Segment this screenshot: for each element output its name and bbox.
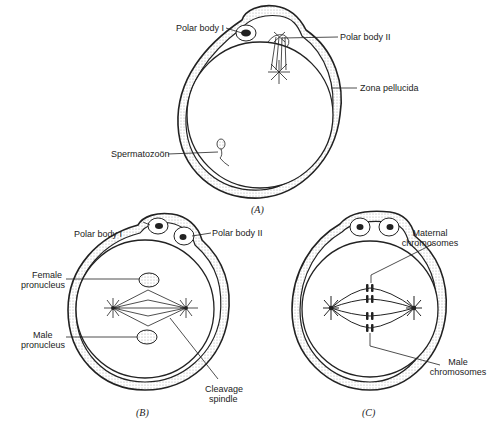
label-male-chromosomes-2: chromosomes — [430, 367, 487, 377]
male-pronucleus — [137, 330, 157, 344]
label-polar-body-2-b: Polar body II — [212, 228, 263, 238]
polar-body-2-c — [379, 218, 399, 236]
polar-body-1-b — [148, 218, 168, 234]
label-male-pronucleus-2: pronucleus — [21, 340, 66, 350]
caption-b: (B) — [136, 407, 149, 419]
label-maternal-chromosomes-2: chromosomes — [402, 238, 459, 248]
label-maternal-chromosomes-1: Maternal — [412, 228, 447, 238]
label-male-pronucleus-1: Male — [33, 330, 53, 340]
caption-c: (C) — [362, 407, 376, 419]
label-polar-body-2-a: Polar body II — [340, 32, 391, 42]
egg-a-zona-pellucida — [178, 6, 341, 198]
fertilization-diagram: Polar body I Polar body II Zona pellucid… — [0, 0, 498, 431]
label-female-pronucleus-2: pronucleus — [21, 280, 66, 290]
label-zona-pellucida: Zona pellucida — [360, 83, 419, 93]
female-pronucleus — [139, 273, 159, 287]
panel-b: Polar body I Polar body II Female pronuc… — [21, 213, 263, 419]
panel-c: Maternal chromosomes Male chromosomes (C… — [292, 211, 487, 419]
polar-body-maternal-c — [350, 218, 370, 236]
label-female-pronucleus-1: Female — [32, 270, 62, 280]
label-cleavage-spindle-1: Cleavage — [205, 384, 243, 394]
label-cleavage-spindle-2: spindle — [209, 394, 238, 404]
label-polar-body-1-b: Polar body I — [74, 229, 122, 239]
panel-a: Polar body I Polar body II Zona pellucid… — [111, 6, 419, 216]
label-polar-body-1-a: Polar body I — [176, 23, 224, 33]
egg-b-zona-pellucida — [68, 213, 229, 390]
polar-body-1-a — [236, 25, 256, 41]
caption-a: (A) — [251, 204, 264, 216]
label-spermatozoon: Spermatozoön — [111, 149, 170, 159]
polar-body-2-b — [174, 227, 194, 245]
label-male-chromosomes-1: Male — [448, 357, 468, 367]
